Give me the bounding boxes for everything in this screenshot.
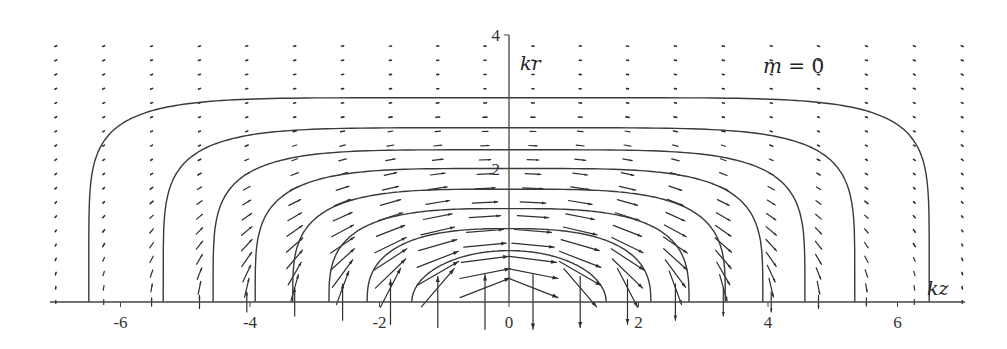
field-arrow bbox=[617, 200, 637, 206]
field-arrow bbox=[770, 117, 772, 118]
field-arrow bbox=[527, 159, 539, 161]
field-arrow bbox=[103, 103, 105, 104]
field-arrow bbox=[770, 89, 772, 90]
field-arrow bbox=[55, 258, 56, 260]
field-arrow bbox=[472, 201, 498, 204]
field-arrow bbox=[382, 186, 398, 190]
field-arrow bbox=[150, 270, 153, 277]
field-arrow bbox=[961, 145, 963, 146]
field-arrow bbox=[198, 159, 201, 160]
field-arrow bbox=[625, 131, 630, 132]
field-arrow bbox=[866, 46, 868, 47]
field-arrow bbox=[566, 214, 595, 220]
field-arrow bbox=[294, 89, 296, 90]
field-arrow bbox=[619, 186, 635, 190]
field-arrow bbox=[388, 131, 393, 132]
field-arrow bbox=[55, 202, 56, 204]
field-arrow bbox=[55, 173, 57, 174]
field-arrow bbox=[913, 117, 915, 118]
field-arrow bbox=[674, 131, 678, 132]
field-arrow bbox=[722, 117, 724, 118]
field-arrow bbox=[512, 243, 554, 249]
field-arrow bbox=[766, 252, 776, 266]
field-plot: -6-4-20246 24 kr kz m = 0 bbox=[0, 0, 1007, 349]
field-arrow bbox=[336, 186, 349, 190]
field-arrow bbox=[291, 173, 298, 176]
field-arrow bbox=[55, 60, 57, 61]
field-arrow bbox=[767, 265, 775, 282]
field-arrow bbox=[621, 173, 633, 176]
field-arrow bbox=[962, 244, 963, 246]
field-arrow bbox=[198, 281, 201, 294]
field-arrow bbox=[666, 212, 685, 221]
field-arrow bbox=[767, 200, 775, 205]
field-arrow bbox=[961, 117, 963, 118]
field-arrow bbox=[962, 173, 964, 174]
field-arrow bbox=[246, 117, 248, 118]
field-arrow bbox=[103, 159, 105, 160]
field-arrow bbox=[246, 46, 248, 47]
field-arrow bbox=[865, 256, 868, 262]
field-arrow bbox=[626, 117, 629, 118]
x-axis-label: kz bbox=[927, 277, 950, 299]
field-arrow bbox=[770, 103, 772, 104]
field-arrow bbox=[913, 46, 915, 47]
field-arrow bbox=[103, 173, 105, 174]
field-arrow bbox=[770, 46, 772, 47]
field-arrow bbox=[151, 145, 153, 146]
field-arrow bbox=[55, 272, 56, 274]
field-arrow bbox=[287, 226, 302, 237]
field-arrow bbox=[103, 145, 105, 146]
field-arrow bbox=[962, 202, 963, 204]
field-arrow bbox=[913, 60, 915, 61]
field-arrow bbox=[103, 230, 105, 233]
field-arrow bbox=[818, 145, 820, 146]
field-arrow bbox=[199, 88, 201, 89]
field-arrow bbox=[815, 241, 821, 249]
field-arrow bbox=[103, 244, 105, 247]
field-arrow bbox=[55, 88, 57, 89]
field-arrow bbox=[380, 199, 400, 205]
field-arrow bbox=[55, 244, 56, 246]
field-arrow bbox=[561, 240, 599, 251]
field-arrow bbox=[961, 46, 963, 47]
field-arrow bbox=[913, 74, 915, 75]
field-arrow bbox=[866, 145, 868, 146]
field-arrow bbox=[961, 74, 963, 75]
field-arrow bbox=[103, 271, 104, 275]
field-arrow bbox=[199, 131, 201, 132]
field-arrow bbox=[568, 201, 592, 206]
field-arrow bbox=[576, 145, 584, 146]
field-arrow bbox=[674, 117, 677, 118]
field-arrow bbox=[913, 88, 915, 89]
field-arrow bbox=[578, 131, 584, 132]
field-arrow bbox=[462, 255, 509, 262]
field-arrow bbox=[914, 271, 915, 275]
field-arrow bbox=[151, 74, 153, 75]
field-arrow bbox=[198, 173, 201, 175]
field-arrow bbox=[244, 187, 251, 191]
field-arrow bbox=[341, 117, 344, 118]
field-arrow bbox=[515, 230, 552, 234]
field-arrow bbox=[288, 213, 302, 221]
field-arrow bbox=[197, 201, 202, 205]
field-arrow bbox=[384, 172, 396, 175]
field-arrow bbox=[865, 215, 868, 218]
field-arrow bbox=[55, 103, 57, 104]
field-arrow bbox=[151, 117, 153, 118]
y-tick-label: 4 bbox=[492, 26, 501, 45]
field-arrow bbox=[293, 131, 296, 132]
field-arrow bbox=[464, 242, 506, 248]
field-arrow bbox=[961, 88, 963, 89]
field-arrow bbox=[246, 103, 248, 104]
field-arrow bbox=[914, 188, 916, 189]
field-arrow bbox=[961, 159, 963, 160]
field-arrow bbox=[293, 145, 297, 146]
field-arrow bbox=[55, 46, 57, 47]
field-arrow bbox=[103, 202, 105, 204]
field-arrow bbox=[818, 46, 820, 47]
field-arrow bbox=[866, 60, 868, 61]
field-arrow bbox=[716, 226, 731, 237]
field-arrow bbox=[103, 60, 105, 61]
x-tick-label: 4 bbox=[764, 313, 773, 332]
